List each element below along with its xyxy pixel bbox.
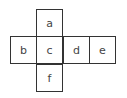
face-e: e <box>89 36 116 64</box>
face-c: c <box>36 36 63 64</box>
face-b: b <box>10 36 37 64</box>
face-d: d <box>63 36 90 64</box>
face-f: f <box>36 64 63 92</box>
face-a: a <box>36 9 63 37</box>
